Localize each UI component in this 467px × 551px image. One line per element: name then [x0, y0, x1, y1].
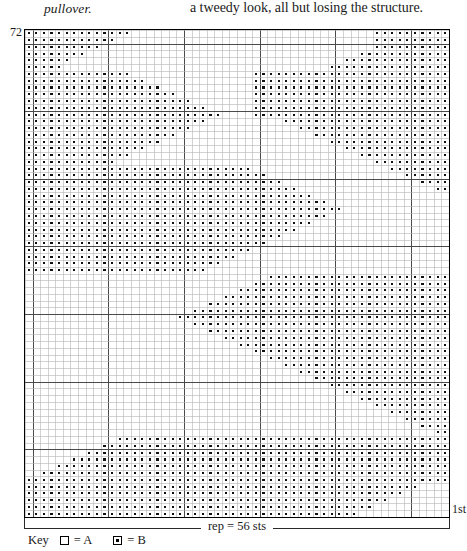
- repeat-bracket-tick-left: [24, 518, 25, 529]
- repeat-label: rep = 56 sts: [201, 519, 273, 534]
- chart-grid-svg: [25, 30, 449, 517]
- repeat-bracket-tick-right: [449, 518, 450, 529]
- empty-square-icon: [60, 536, 69, 545]
- page-running-text: pullover. a tweedy look, all but losing …: [0, 0, 467, 22]
- key-entry-a: = A: [60, 533, 93, 548]
- caption-left-text: pullover.: [44, 1, 92, 17]
- body-right-text: a tweedy look, all but losing the struct…: [190, 0, 423, 16]
- chart-grid-container: [24, 29, 450, 518]
- key-entry-a-label: = A: [74, 533, 93, 548]
- dotted-square-icon: [113, 536, 122, 545]
- chart-row-label-bottom: 1st: [452, 502, 466, 517]
- key-entry-b: = B: [113, 533, 146, 548]
- chart-row-label-top: 72: [2, 25, 22, 40]
- chart-key: Key = A = B: [28, 533, 146, 548]
- knitting-chart: 72 1st rep = 56 sts: [0, 25, 467, 525]
- key-title: Key: [28, 533, 49, 548]
- key-entry-b-label: = B: [127, 533, 146, 548]
